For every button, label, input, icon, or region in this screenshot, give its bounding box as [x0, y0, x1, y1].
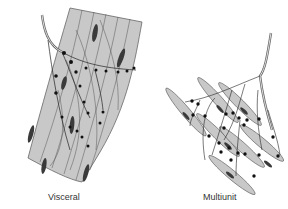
multiunit-label: Multiunit	[203, 192, 237, 202]
smooth-muscle-figure: Visceral Multiunit	[0, 0, 288, 209]
visceral-muscle-sheet	[26, 8, 142, 182]
multiunit-muscle-cells	[163, 33, 287, 198]
figure-illustration	[0, 0, 288, 209]
visceral-label: Visceral	[48, 192, 80, 202]
